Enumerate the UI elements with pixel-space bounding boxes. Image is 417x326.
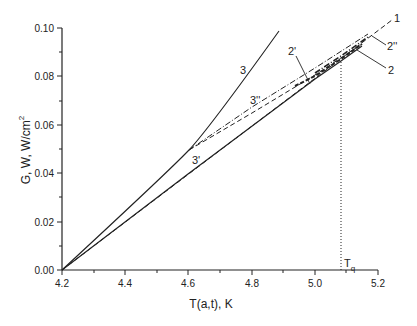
leader-lines [296,36,386,84]
x-tick-labels: 4.2 4.4 4.6 4.8 5.0 5.2 [55,278,385,289]
tq-label-sub: q [351,264,355,273]
y-axis-title-sup: 2 [17,115,26,120]
y-tick-label: 0.04 [35,168,55,179]
curve-labels: 1 2 2' 2'' 3 3' 3'' [192,12,400,166]
curve-3 [62,31,279,270]
y-tick-label: 0.10 [35,23,55,34]
label-3-prime: 3' [192,154,200,166]
y-axis-title-main: G, W, W/cm [19,120,33,184]
y-axis-title: G, W, W/cm2 [17,115,33,184]
y-tick-label: 0.06 [35,120,55,131]
label-2-double-prime: 2'' [387,40,397,52]
x-ticks [62,270,378,275]
x-tick-label: 5.0 [308,278,322,289]
y-tick-label: 0.08 [35,71,55,82]
x-tick-label: 5.2 [371,278,385,289]
x-tick-label: 4.6 [181,278,195,289]
y-axis-title-group: G, W, W/cm2 [17,115,33,184]
curves [62,20,392,270]
curve-2 [62,46,362,270]
x-tick-label: 4.2 [55,278,69,289]
y-tick-label: 0.00 [35,265,55,276]
y-tick-labels: 0.00 0.02 0.04 0.06 0.08 0.10 [35,23,55,276]
label-1: 1 [394,12,400,24]
x-tick-label: 4.4 [118,278,132,289]
label-2-prime: 2' [288,45,296,57]
curve-2-double-prime [315,37,368,73]
y-ticks [57,28,62,270]
chart: 0.00 0.02 0.04 0.06 0.08 0.10 4.2 4.4 4.… [0,0,417,326]
label-2: 2 [388,64,394,76]
x-axis-title: T(a,t), K [189,297,232,311]
label-3-double-prime: 3'' [250,94,260,106]
x-tick-label: 4.8 [245,278,259,289]
y-tick-label: 0.02 [35,217,55,228]
label-3: 3 [240,64,246,76]
